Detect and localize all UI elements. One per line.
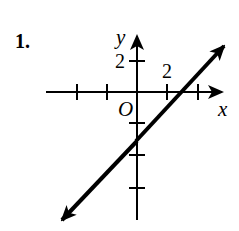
y-tick-label: 2 (115, 50, 125, 72)
origin-label: O (118, 97, 133, 121)
y-axis-label: y (114, 25, 126, 49)
graph-line (136, 46, 224, 141)
graph-line-lower (62, 141, 137, 220)
x-axis-label: x (217, 97, 228, 121)
line-graph: y 2 2 O x (0, 0, 239, 231)
x-tick-label: 2 (162, 60, 172, 82)
